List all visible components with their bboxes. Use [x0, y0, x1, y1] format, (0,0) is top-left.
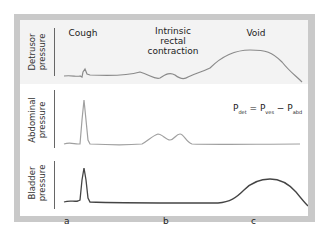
- figure-frame: Detrusor pressure Abdominal pressure Bla…: [14, 14, 315, 222]
- x-label-a: a: [64, 216, 70, 226]
- x-label-b: b: [163, 216, 169, 226]
- formula-equals: =: [247, 103, 260, 113]
- formula-minus: −: [274, 103, 287, 113]
- pdet-formula: Pdet = Pves − Pabd: [233, 103, 302, 115]
- bladder-trace: [64, 168, 308, 206]
- detrusor-trace: [64, 50, 302, 82]
- formula-pdet-sub: det: [238, 109, 246, 115]
- formula-pabd-sub: abd: [293, 109, 302, 115]
- figure-inner: Detrusor pressure Abdominal pressure Bla…: [20, 20, 308, 216]
- pressure-traces: [20, 20, 308, 216]
- x-label-c: c: [251, 216, 256, 226]
- formula-pves-sub: ves: [265, 109, 274, 115]
